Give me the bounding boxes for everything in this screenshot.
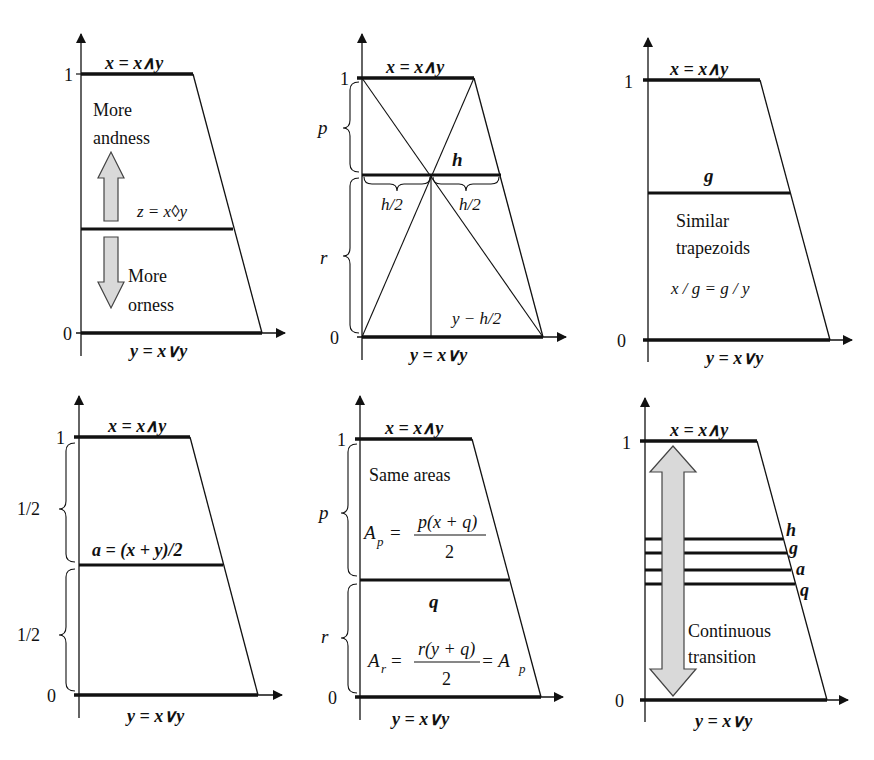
similar-line1: Similar: [676, 211, 729, 231]
a-label: a = (x + y)/2: [92, 540, 183, 561]
eq-lower-sub: r: [381, 661, 387, 676]
eq-upper-equals: =: [390, 522, 401, 543]
more-andness-line2: andness: [93, 128, 150, 148]
bottom-label: y = x∨y: [693, 711, 753, 731]
half-left-label: h/2: [381, 195, 403, 214]
eq-upper-lhs: A: [362, 522, 376, 543]
eq-lower-rhs-sub: p: [518, 661, 526, 676]
more-orness-line2: orness: [128, 295, 174, 315]
brace-r-label: r: [320, 247, 328, 268]
top-label: x = x∧y: [385, 57, 445, 77]
bottom-label: y = x∨y: [390, 709, 450, 729]
brace-r: [343, 178, 359, 333]
panel-continuous-transition: 1 0 x = x∧y y = x∨y h g a q Continuous t…: [615, 398, 848, 731]
tick-one-label: 1: [337, 430, 346, 450]
half-right-label: h/2: [459, 195, 481, 214]
tick-one-label: 1: [340, 69, 349, 89]
level-g-label: g: [788, 538, 798, 558]
panel-quadratic: 1 0 x = x∧y y = x∨y Same areas q p r A p…: [317, 396, 563, 729]
level-q-label: q: [800, 580, 809, 600]
more-orness-line1: More: [128, 266, 167, 286]
top-label: x = x∧y: [669, 59, 729, 79]
brace-p-label: p: [317, 502, 329, 523]
eq-lower-num: r(y + q): [418, 639, 475, 660]
q-label: q: [429, 591, 439, 612]
eq-lower-rhs: = A: [481, 650, 510, 671]
top-label: x = x∧y: [384, 418, 444, 438]
brace-upper: [59, 443, 75, 562]
brace-lower-label: 1/2: [17, 625, 40, 645]
diagonal-2: [362, 78, 474, 337]
tick-zero-label: 0: [615, 691, 624, 711]
eq-upper-sub: p: [376, 534, 384, 549]
panel-geometric: 1 0 x = x∧y y = x∨y g Similar trapezoids…: [617, 38, 852, 368]
down-arrow-icon: [98, 237, 124, 308]
brace-upper-label: 1/2: [17, 499, 40, 519]
brace-half-left: [364, 177, 430, 191]
bottom-label: y = x∨y: [408, 345, 468, 365]
tick-one-label: 1: [622, 433, 631, 453]
tick-one-label: 1: [64, 65, 73, 85]
bottom-label: y = x∨y: [704, 348, 764, 368]
level-a-label: a: [796, 559, 805, 579]
tick-zero-label: 0: [47, 686, 56, 706]
eq-upper-num: p(x + q): [416, 512, 477, 533]
eq-lower-den: 2: [442, 669, 451, 689]
panel-andness-orness: 1 0 x = x∧y y = x∨y More andness z = x◊y…: [63, 34, 285, 361]
g-label: g: [703, 165, 714, 186]
panel-harmonic: 1 0 x = x∧y y = x∨y h h/2 h/2 y − h/2 p …: [316, 34, 566, 365]
slanted-side: [760, 80, 830, 340]
tick-zero-label: 0: [328, 688, 337, 708]
up-arrow-icon: [98, 152, 124, 221]
brace-lower: [59, 569, 75, 691]
continuous-line2: transition: [688, 647, 756, 667]
h-label: h: [452, 149, 463, 170]
brace-p: [343, 82, 359, 172]
mid-label: z = x◊y: [136, 202, 188, 221]
similar-line2: trapezoids: [676, 238, 750, 258]
eq-upper-den: 2: [445, 542, 454, 562]
slanted-side: [193, 74, 262, 333]
brace-r-label: r: [321, 626, 329, 647]
same-areas-label: Same areas: [369, 465, 450, 485]
tick-zero-label: 0: [330, 328, 339, 348]
brace-p: [341, 444, 357, 576]
brace-p-label: p: [316, 117, 328, 138]
panel-arithmetic: 1 0 x = x∧y y = x∨y a = (x + y)/2 1/2 1/…: [17, 396, 282, 726]
area-p-equation: A p = p(x + q) 2: [362, 512, 486, 562]
trapezoid-figure: 1 0 x = x∧y y = x∨y More andness z = x◊y…: [0, 0, 874, 760]
tick-one-label: 1: [624, 72, 633, 92]
continuous-line1: Continuous: [688, 621, 771, 641]
ratio-equation: x / g = g / y: [670, 279, 750, 298]
top-label: x = x∧y: [669, 420, 729, 440]
tick-zero-label: 0: [63, 324, 72, 344]
eq-lower-lhs: A: [366, 650, 380, 671]
eq-lower-equals: =: [391, 650, 402, 671]
tick-zero-label: 0: [617, 331, 626, 351]
bottom-label: y = x∨y: [125, 706, 185, 726]
top-label: x = x∧y: [107, 416, 167, 436]
tick-one-label: 1: [56, 428, 65, 448]
bottom-label: y = x∨y: [128, 341, 188, 361]
brace-half-right: [433, 177, 499, 191]
slanted-side: [474, 78, 543, 337]
top-label: x = x∧y: [104, 53, 164, 73]
brace-r: [341, 584, 357, 693]
level-h-label: h: [786, 520, 796, 540]
more-andness-line1: More: [93, 100, 132, 120]
area-r-equation: A r = r(y + q) 2 = A p: [366, 639, 526, 689]
corner-label: y − h/2: [450, 309, 502, 328]
